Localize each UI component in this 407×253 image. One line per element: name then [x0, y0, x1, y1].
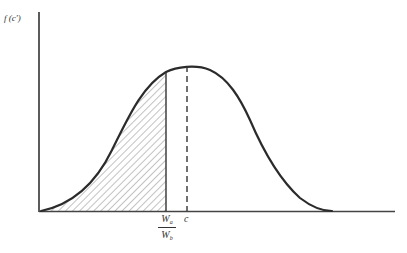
numerator-symbol: W	[161, 213, 169, 224]
denominator-symbol: W	[161, 229, 169, 240]
fraction-numerator: Wa	[158, 214, 176, 225]
mean-label: c	[184, 214, 188, 224]
threshold-label: Wa Wb	[158, 214, 176, 241]
fraction-bar	[158, 227, 176, 228]
fraction-denominator: Wb	[158, 230, 176, 241]
density-plot	[0, 0, 407, 253]
numerator-subscript: a	[170, 219, 173, 225]
y-axis-label: f (c')	[4, 14, 21, 23]
denominator-subscript: b	[170, 235, 173, 241]
shaded-tail-area	[41, 72, 166, 211]
